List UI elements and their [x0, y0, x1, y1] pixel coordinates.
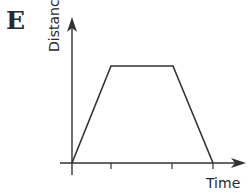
- distance-time-line: [72, 66, 213, 163]
- x-ticks: [111, 163, 213, 169]
- chart-plot: [0, 0, 249, 195]
- x-axis: [60, 158, 246, 168]
- y-axis: [67, 17, 77, 175]
